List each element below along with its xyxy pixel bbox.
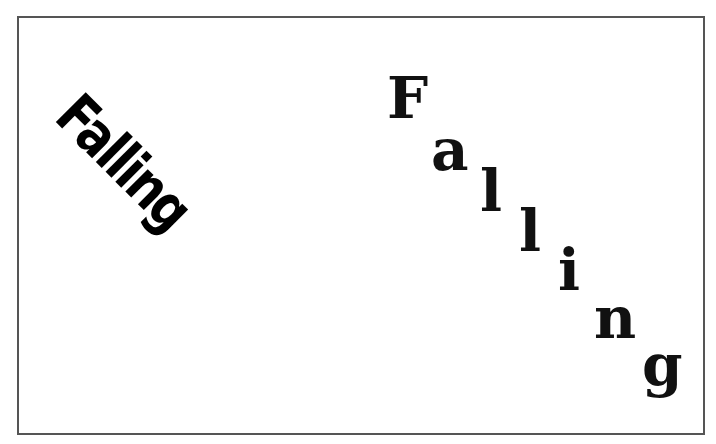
- falling-letter: g: [642, 336, 683, 394]
- falling-letter: i: [558, 241, 580, 299]
- falling-letter: n: [594, 289, 636, 347]
- falling-letter: a: [431, 121, 469, 179]
- falling-letter: F: [387, 69, 428, 127]
- falling-letter: l: [519, 202, 541, 260]
- falling-letter: l: [480, 162, 502, 220]
- rotated-word-container: Falling: [24, 62, 224, 262]
- rotated-falling-word: Falling: [46, 84, 201, 239]
